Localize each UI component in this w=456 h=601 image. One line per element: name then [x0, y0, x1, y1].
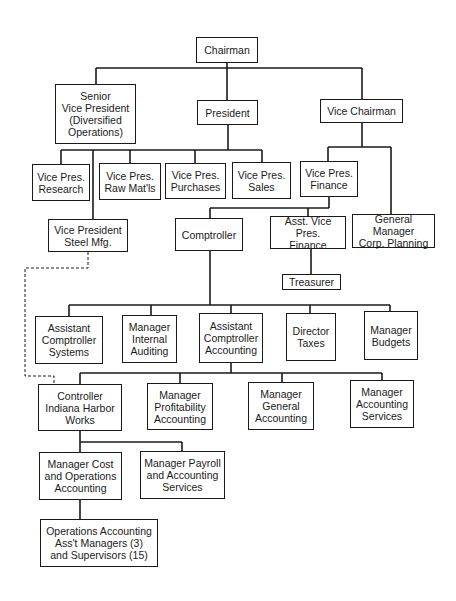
node-manager-budgets: Manager Budgets: [364, 311, 418, 360]
node-asst-comptroller-systems: Assistant Comptroller Systems: [35, 316, 103, 364]
org-chart: Chairman Senior Vice President (Diversif…: [0, 0, 456, 601]
node-vp-raw-materials: Vice Pres. Raw Mat'ls: [99, 163, 161, 200]
node-senior-vice-president: Senior Vice President (Diversified Opera…: [55, 84, 136, 144]
node-operations-accounting: Operations Accounting Ass't Managers (3)…: [40, 519, 158, 567]
node-chairman: Chairman: [196, 37, 258, 63]
node-vp-finance: Vice Pres. Finance: [300, 161, 358, 197]
node-comptroller: Comptroller: [175, 218, 243, 251]
node-gm-corp-planning: General Manager Corp. Planning: [352, 214, 435, 248]
node-manager-internal-auditing: Manager Internal Auditing: [122, 315, 177, 363]
node-vice-chairman: Vice Chairman: [320, 99, 403, 123]
node-president: President: [197, 100, 258, 125]
node-manager-profitability-accounting: Manager Profitability Accounting: [147, 383, 213, 430]
node-vp-research: Vice Pres. Research: [32, 164, 90, 201]
node-manager-payroll: Manager Payroll and Accounting Services: [140, 451, 225, 499]
node-asst-vp-finance: Asst. Vice Pres. Finance: [270, 216, 346, 249]
node-manager-general-accounting: Manager General Accounting: [248, 382, 314, 430]
node-treasurer: Treasurer: [282, 274, 341, 290]
node-vp-sales: Vice Pres. Sales: [232, 162, 291, 199]
node-vp-steel-mfg: Vice President Steel Mfg.: [48, 219, 128, 252]
node-manager-accounting-services: Manager Accounting Services: [350, 380, 414, 428]
node-asst-comptroller-accounting: Assistant Comptroller Accounting: [199, 313, 263, 363]
node-controller-indiana-harbor: Controller Indiana Harbor Works: [38, 384, 122, 431]
node-vp-purchases: Vice Pres. Purchases: [165, 163, 226, 199]
node-manager-cost-operations: Manager Cost and Operations Accounting: [39, 452, 122, 500]
node-director-taxes: Director Taxes: [286, 313, 336, 361]
